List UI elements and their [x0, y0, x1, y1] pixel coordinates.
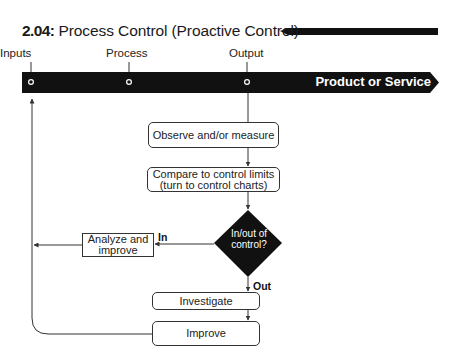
- out-label: Out: [253, 280, 271, 292]
- decision-text: In/out of control?: [216, 229, 282, 250]
- section-number: 2.04:: [22, 22, 54, 39]
- process-dot: [127, 80, 132, 85]
- compare-text-line1: Compare to control limits: [153, 169, 275, 180]
- investigate-text: Investigate: [179, 296, 232, 307]
- page-title: 2.04: Process Control (Proactive Control…: [22, 22, 299, 40]
- analyze-text-line2: improve: [98, 245, 137, 256]
- observe-node: Observe and/or measure: [148, 122, 279, 148]
- title-rule: [280, 28, 438, 35]
- inputs-label: Inputs: [0, 47, 31, 59]
- in-label: In: [158, 231, 167, 243]
- product-or-service-label: Product or Service: [315, 74, 431, 89]
- analyze-node: Analyze and improve: [82, 233, 154, 257]
- inputs-dot: [29, 80, 34, 85]
- compare-node: Compare to control limits (turn to contr…: [147, 167, 280, 192]
- investigate-node: Investigate: [152, 292, 260, 310]
- observe-text: Observe and/or measure: [153, 130, 275, 141]
- decision-text-line2: control?: [216, 240, 282, 251]
- compare-text-line2: (turn to control charts): [160, 180, 268, 191]
- feedback-loop-arrow: [32, 99, 152, 334]
- output-label: Output: [229, 47, 264, 59]
- decision-text-line1: In/out of: [216, 229, 282, 240]
- process-label: Process: [106, 47, 148, 59]
- improve-text: Improve: [186, 328, 226, 339]
- title-text: Process Control (Proactive Control): [54, 22, 298, 39]
- improve-node: Improve: [152, 321, 260, 346]
- output-dot: [245, 80, 250, 85]
